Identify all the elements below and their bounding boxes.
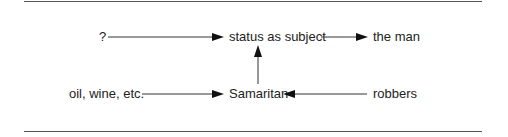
arrows <box>0 0 508 137</box>
